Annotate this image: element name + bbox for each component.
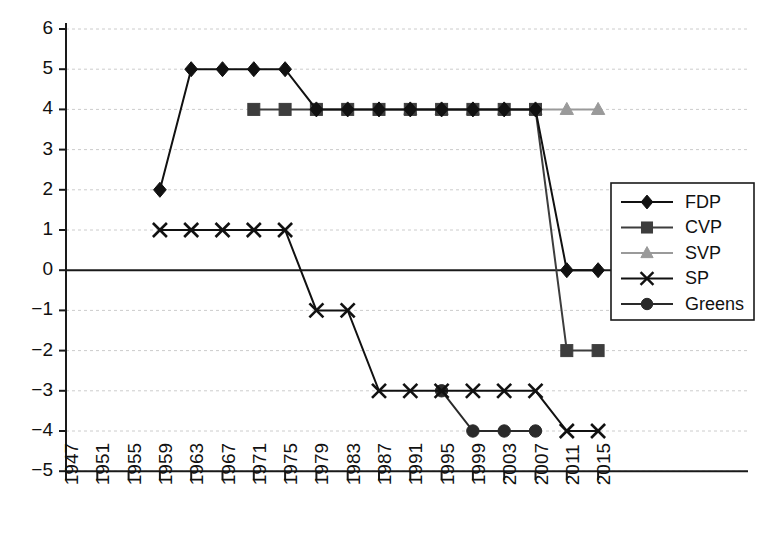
x-tick-label: 1995 [437, 443, 458, 485]
y-tick-label: 2 [42, 178, 53, 199]
x-tick-label: 1971 [249, 443, 270, 485]
y-tick-label: 4 [42, 97, 53, 118]
square-marker [561, 345, 573, 357]
x-tick-label: 1967 [218, 443, 239, 485]
x-tick-label: 1959 [155, 443, 176, 485]
x-tick-label: 1983 [343, 443, 364, 485]
x-tick-label: 1955 [124, 443, 145, 485]
y-tick-label: −1 [31, 298, 53, 319]
x-tick-label: 2007 [531, 443, 552, 485]
x-tick-label: 1999 [468, 443, 489, 485]
square-marker [641, 222, 652, 233]
legend-label: FDP [685, 192, 721, 212]
y-tick-label: 6 [42, 17, 53, 38]
x-tick-label: 2015 [593, 443, 614, 485]
square-marker [592, 345, 604, 357]
legend-label: SVP [685, 243, 721, 263]
square-marker [248, 103, 260, 115]
y-tick-label: 5 [42, 57, 53, 78]
y-tick-label: −2 [31, 339, 53, 360]
x-tick-label: 1987 [374, 443, 395, 485]
circle-marker [498, 425, 510, 437]
line-chart: 6543210−1−2−3−4−5 1947195119551959196319… [0, 0, 762, 560]
x-tick-label: 2011 [562, 444, 583, 485]
y-tick-label: 1 [42, 218, 53, 239]
square-marker [279, 103, 291, 115]
y-tick-label: −4 [31, 419, 53, 440]
x-tick-label: 1979 [311, 443, 332, 485]
legend-label: Greens [685, 294, 744, 314]
legend-label: CVP [685, 217, 722, 237]
y-tick-label: −5 [31, 459, 53, 480]
chart-container: 6543210−1−2−3−4−5 1947195119551959196319… [0, 0, 762, 560]
x-tick-label: 1975 [280, 443, 301, 485]
x-tick-label: 2003 [499, 443, 520, 485]
circle-marker [467, 425, 479, 437]
x-tick-label: 1991 [405, 443, 426, 485]
chart-legend: FDPCVPSVPSPGreens [611, 183, 754, 320]
x-tick-label: 1963 [186, 443, 207, 485]
circle-marker [529, 425, 541, 437]
y-tick-label: 0 [42, 258, 53, 279]
legend-label: SP [685, 268, 709, 288]
y-tick-label: −3 [31, 379, 53, 400]
circle-marker [641, 298, 652, 309]
x-tick-label: 1947 [61, 443, 82, 485]
x-tick-label: 1951 [92, 443, 113, 485]
y-tick-label: 3 [42, 138, 53, 159]
